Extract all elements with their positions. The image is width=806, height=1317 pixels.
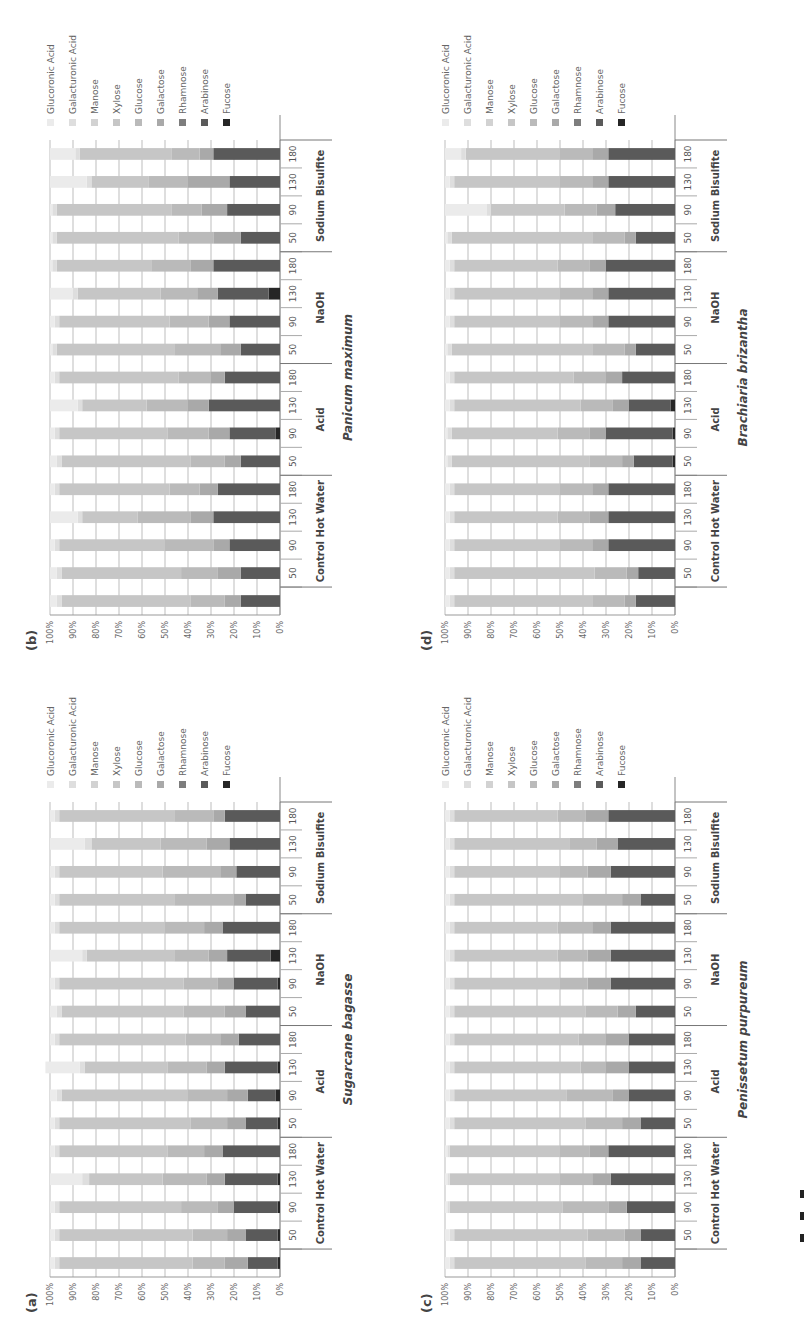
stacked-bar [50,176,280,188]
bar-segment [588,866,611,878]
group-label: Acid [315,407,326,431]
group-label: Control Hot Water [315,1142,326,1244]
bar-segment [248,1090,276,1102]
bar-segment [454,483,560,495]
legend-swatch [552,781,559,788]
legend-label: Galactose [156,69,166,114]
y-tick-label: 40% [184,1283,193,1301]
bar-segment [618,838,676,850]
bar-segment [450,483,455,495]
bar-segment [558,810,586,822]
bar-segment [590,260,606,272]
bar-segment [225,1173,278,1185]
bar-segment [50,288,73,300]
bar-segment [50,1145,55,1157]
bar-segment [278,1117,280,1129]
bar-segment [50,148,75,160]
bar-segment [220,866,236,878]
legend-label: Glucose [529,78,539,114]
temperature-label: 180 [683,1031,693,1048]
legend-swatch [508,119,515,126]
stacked-bar [50,511,280,523]
bar-segment [174,894,234,906]
bar-segment [606,372,622,384]
legend-label: Galacturonic Acid [463,697,473,776]
bar-segment [454,894,583,906]
y-tick-label: 30% [207,1283,216,1301]
bar-segment [163,866,221,878]
bar-segment [50,894,55,906]
bar-segment [278,978,280,990]
bar-segment [278,1201,280,1213]
bar-segment [197,288,218,300]
bar-segment [87,950,174,962]
bar-segment [59,1117,190,1129]
group-label: Acid [315,1069,326,1093]
bar-segment [560,1173,592,1185]
bar-segment [454,1117,585,1129]
bar-segment [595,567,627,579]
bar-segment [590,455,622,467]
legend-swatch [47,781,54,788]
bar-segment [57,204,172,216]
temperature-label: 180 [683,480,693,497]
bar-segment [608,148,675,160]
bar-segment [454,1229,587,1241]
bar-segment [55,922,60,934]
bar-segment [560,1145,590,1157]
bar-segment [55,1201,60,1213]
bar-segment [209,316,230,328]
bar-segment [627,567,639,579]
bar-segment [445,810,450,822]
bar-segment [179,372,211,384]
bar-segment [445,288,450,300]
legend-swatch [157,781,164,788]
bar-segment [560,483,592,495]
bar-segment [188,1090,227,1102]
bar-segment [454,539,560,551]
bar-segment [445,316,450,328]
stacked-bar [445,838,675,850]
group-label: Control Hot Water [710,480,721,582]
bar-segment [454,372,574,384]
bar-segment [608,539,675,551]
legend-swatch [530,781,537,788]
bar-segment [558,428,590,440]
y-tick-label: 70% [510,1283,519,1301]
bar-segment [229,428,275,440]
stacked-bar [445,344,675,356]
bar-segment [55,539,60,551]
bar-segment [57,1006,62,1018]
bar-segment [85,838,92,850]
temperature-label: 130 [288,397,298,414]
bar-segment [209,428,230,440]
stacked-bar [50,204,280,216]
bar-segment [200,148,214,160]
bar-segment [55,1229,60,1241]
bar-segment [248,1257,278,1269]
bar-segment [50,372,55,384]
temperature-label: 180 [288,1142,298,1159]
y-tick-label: 60% [138,621,147,639]
bar-segment [450,567,455,579]
bar-segment [160,288,197,300]
bar-segment [636,232,675,244]
bar-segment [560,978,588,990]
bar-segment [450,1173,560,1185]
stacked-bar [445,922,675,934]
legend-label: Arabinose [595,731,605,776]
chart-svg: (c)0%10%20%30%40%50%60%70%80%90%100%5090… [405,662,785,1317]
stacked-bar [50,894,280,906]
bar-segment [50,316,55,328]
bar-segment [50,483,55,495]
bar-segment [59,483,169,495]
bar-segment [569,838,597,850]
bar-segment [50,1006,57,1018]
stacked-bar [445,1034,675,1046]
chart-svg: (d)0%10%20%30%40%50%60%70%80%90%100%5090… [405,0,785,655]
stacked-bar [50,372,280,384]
temperature-label: 90 [683,866,693,878]
bar-segment [641,1257,676,1269]
bar-segment [611,978,675,990]
bar-segment [454,316,560,328]
